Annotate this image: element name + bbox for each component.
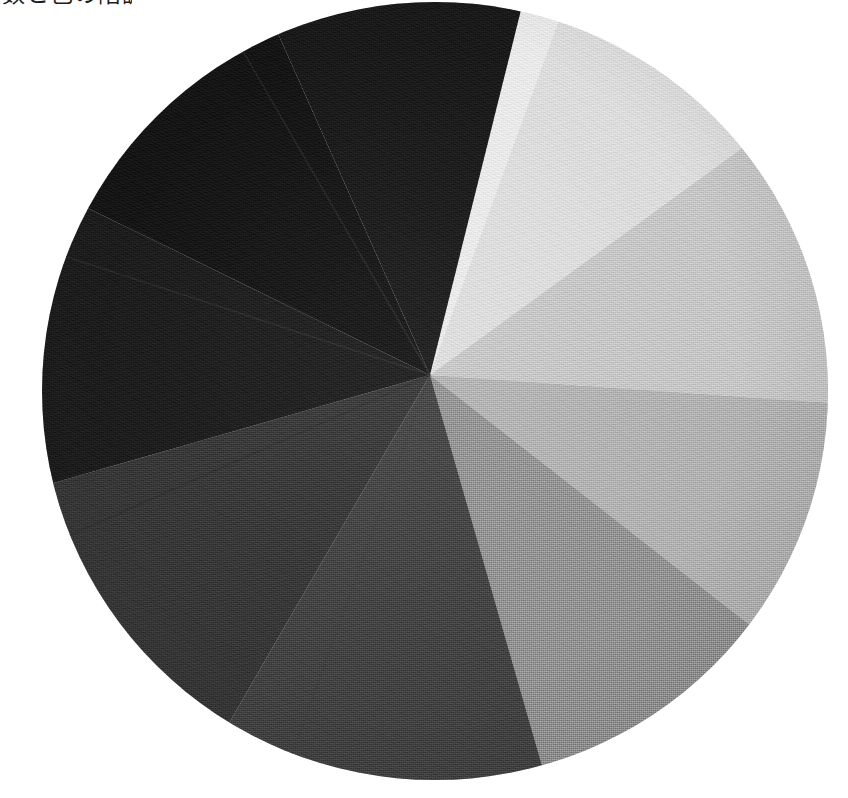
value-wheel-svg (42, 2, 828, 780)
caption-clipped-text: 数と色の階調 (2, 0, 132, 11)
value-wheel (42, 2, 828, 780)
wheel-segment-group (42, 2, 828, 780)
page-canvas: 数と色の階調 (0, 0, 848, 798)
caption-label: 数と色の階調 (2, 0, 132, 6)
